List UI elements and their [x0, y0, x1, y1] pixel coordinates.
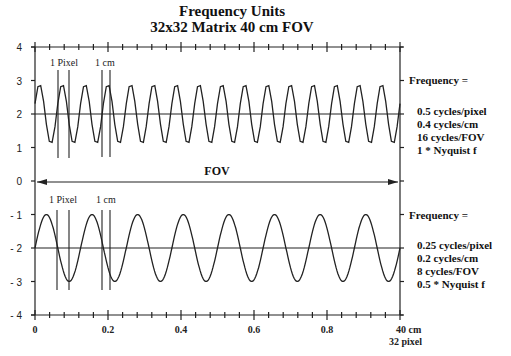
- fov-arrow-right-icon: [388, 179, 398, 185]
- x-tick-label: 0.2: [102, 324, 115, 335]
- x-tick-label: 0: [33, 324, 38, 335]
- y-tick-label: 1: [16, 143, 22, 154]
- y-tick-label: - 1: [10, 210, 22, 221]
- x-tick-label: 0.8: [321, 324, 334, 335]
- top-frequency-heading: Frequency =: [409, 74, 468, 86]
- x-end-label-cm: 40 cm: [396, 324, 422, 335]
- axes: [31, 42, 404, 320]
- x-axis-labels: 00.20.40.60.8: [33, 324, 334, 335]
- top-pixel-label: 1 Pixel: [50, 57, 78, 68]
- y-tick-label: - 2: [10, 243, 22, 254]
- x-end-label-pixel: 32 pixel: [389, 336, 422, 347]
- x-tick-label: 0.6: [248, 324, 261, 335]
- fov-arrow-left-icon: [37, 179, 47, 185]
- top-freq-line-1: 0.5 cycles/pixel: [417, 105, 487, 117]
- y-tick-label: 3: [16, 76, 22, 87]
- bottom-freq-line-1: 0.25 cycles/pixel: [417, 239, 492, 251]
- bottom-freq-line-2: 0.2 cycles/cm: [417, 252, 478, 264]
- y-tick-label: - 3: [10, 277, 22, 288]
- bottom-frequency-heading: Frequency =: [409, 209, 468, 221]
- frequency-diagram: Frequency Units 32x32 Matrix 40 cm FOV 4…: [0, 0, 511, 356]
- title-line2: 32x32 Matrix 40 cm FOV: [150, 19, 313, 35]
- top-freq-line-2: 0.4 cycles/cm: [417, 118, 478, 130]
- top-freq-line-3: 16 cycles/FOV: [417, 131, 485, 143]
- y-axis-labels: 43210- 1- 2- 3- 4: [10, 42, 22, 321]
- bottom-cm-label: 1 cm: [96, 194, 116, 205]
- top-freq-line-4: 1 * Nyquist f: [417, 144, 477, 156]
- y-tick-label: 2: [16, 109, 22, 120]
- y-tick-label: - 4: [10, 310, 22, 321]
- bottom-freq-line-3: 8 cycles/FOV: [417, 265, 479, 277]
- bottom-freq-line-4: 0.5 * Nyquist f: [417, 278, 485, 290]
- y-tick-label: 0: [16, 176, 22, 187]
- x-tick-label: 0.4: [175, 324, 188, 335]
- bottom-pixel-label: 1 Pixel: [49, 194, 77, 205]
- title-line1: Frequency Units: [179, 3, 285, 19]
- top-cm-label: 1 cm: [95, 57, 115, 68]
- y-tick-label: 4: [16, 42, 22, 53]
- fov-label: FOV: [204, 164, 230, 178]
